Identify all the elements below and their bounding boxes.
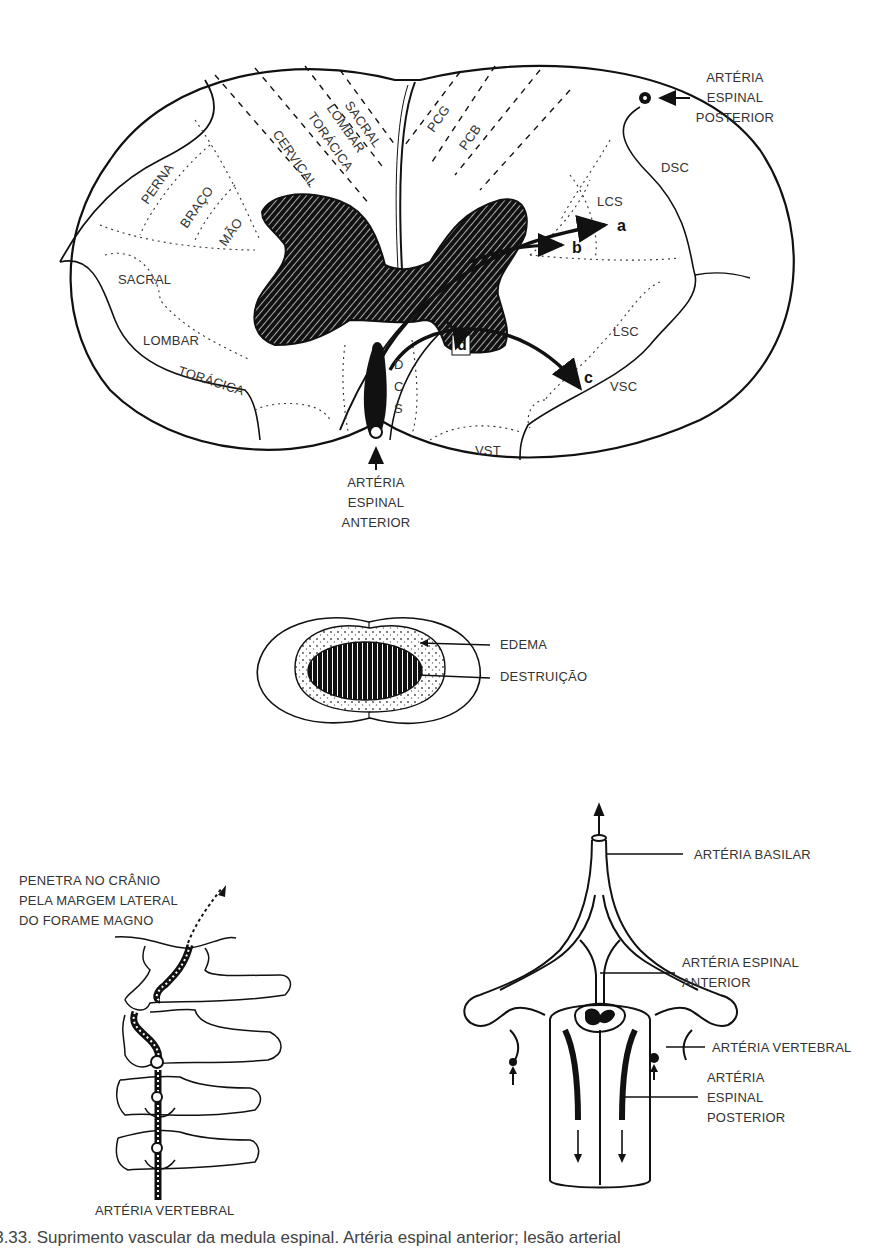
label-arteria-espinal-anterior: ARTÉRIA ESPINAL ANTERIOR (682, 955, 799, 991)
label-destruicao: DESTRUIÇÃO (500, 669, 587, 685)
label-dcs-d: D (394, 357, 404, 373)
label-lcs: LCS (597, 194, 623, 210)
label-arteria-vertebral-bottom: ARTÉRIA VERTEBRAL (95, 1203, 234, 1219)
label-sacral-spinothalamic: SACRAL (118, 272, 171, 288)
label-arteria-espinal-posterior: ARTÉRIA ESPINAL POSTERIOR (707, 1070, 785, 1126)
anterior-spinal-artery-label: ARTÉRIA ESPINAL ANTERIOR (331, 475, 421, 531)
label-lombar-spinothalamic: LOMBAR (143, 333, 199, 349)
arrow-label-d: d (457, 337, 467, 353)
label-lsc: LSC (613, 324, 639, 340)
label-dsc: DSC (661, 160, 689, 176)
arrow-label-b: b (572, 240, 582, 256)
label-vsc: VSC (610, 379, 637, 395)
label-edema: EDEMA (500, 637, 547, 653)
label-dcs-s: S (394, 401, 403, 417)
label-dcs-c: C (394, 379, 404, 395)
posterior-spinal-artery-label: ARTÉRIA ESPINAL POSTERIOR (690, 70, 780, 126)
figure-caption: a 3.33. Suprimento vascular da medula es… (0, 1228, 621, 1248)
arrow-label-a: a (617, 218, 626, 234)
label-arteria-basilar: ARTÉRIA BASILAR (694, 847, 811, 863)
label-arteria-vertebral-right: ARTÉRIA VERTEBRAL (712, 1040, 851, 1056)
arrow-label-c: c (584, 370, 593, 386)
label-vst: VST (475, 443, 501, 459)
vertebral-entry-note: PENETRA NO CRÂNIO PELA MARGEM LATERAL DO… (19, 873, 178, 929)
